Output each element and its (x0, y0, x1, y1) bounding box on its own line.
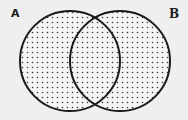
venn-diagram: A B (0, 0, 188, 120)
set-a-label: A (11, 8, 20, 19)
set-b-label: B (169, 8, 179, 20)
venn-svg (0, 0, 188, 120)
